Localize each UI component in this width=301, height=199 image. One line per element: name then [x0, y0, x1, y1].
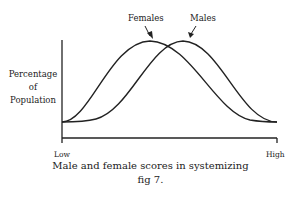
- males-arrowhead-icon: [188, 32, 194, 38]
- males-curve: [62, 41, 277, 122]
- figure-number: fig 7.: [0, 174, 301, 185]
- males-label: Males: [190, 13, 216, 23]
- females-label: Females: [128, 13, 164, 23]
- females-curve: [62, 41, 277, 122]
- ylabel-line-1: Percentage: [4, 68, 62, 81]
- x-tick-low: Low: [54, 150, 70, 159]
- y-axis-label: Percentage of Population: [4, 68, 62, 107]
- x-tick-high: High: [266, 150, 285, 159]
- ylabel-line-3: Population: [4, 94, 62, 107]
- males-arrow-icon: [191, 26, 196, 34]
- ylabel-line-2: of: [4, 81, 62, 94]
- chart-caption: Male and female scores in systemizing: [0, 160, 301, 171]
